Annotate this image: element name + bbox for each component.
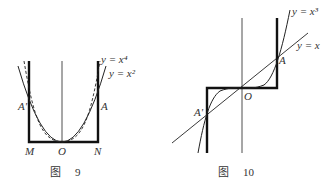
- caption-number: 9: [75, 166, 81, 178]
- label-y-x: y = x: [296, 39, 320, 51]
- caption-number: 10: [243, 166, 255, 178]
- label-o: O: [58, 145, 66, 157]
- label-o: O: [244, 90, 252, 102]
- figure-10: y = x³ y = x A A' O 图 10: [172, 5, 320, 178]
- label-a: A: [278, 54, 286, 66]
- label-y-x3: y = x³: [291, 5, 319, 17]
- thick-u-boundary: [29, 61, 98, 142]
- label-a-prime: A': [17, 100, 28, 112]
- figure-9: y = x⁴ y = x² A' A M O N 图 9: [17, 53, 136, 178]
- label-a: A: [100, 100, 108, 112]
- caption-prefix: 图: [218, 166, 229, 178]
- label-n: N: [93, 145, 102, 157]
- label-y-x4: y = x⁴: [100, 53, 128, 65]
- label-a-prime: A': [193, 106, 204, 118]
- caption-prefix: 图: [50, 166, 61, 178]
- figures-canvas: y = x⁴ y = x² A' A M O N 图 9 y = x³ y = …: [0, 0, 335, 189]
- label-y-x2: y = x²: [108, 67, 136, 79]
- label-m: M: [24, 145, 35, 157]
